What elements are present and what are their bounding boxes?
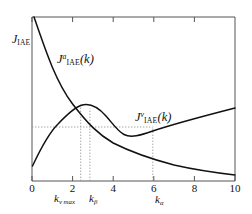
annotation-k-v-max-sub: v max <box>59 198 75 205</box>
curve-label-J-IAE-alpha: JaIAE(k) <box>57 52 94 67</box>
annotation-k-beta: kβ <box>89 192 97 205</box>
curve-label-v-arg: (k) <box>158 110 172 124</box>
x-tick-label-8: 8 <box>184 182 204 194</box>
x-tick-label-10: 10 <box>225 182 245 194</box>
x-tick-label-4: 4 <box>103 182 123 194</box>
annotation-k-v-max: kv max <box>54 192 75 205</box>
annotation-k-alpha-sub: α <box>160 199 164 206</box>
annotation-k-beta-sub: β <box>94 198 97 205</box>
curve-label-a-sub: IAE <box>66 58 80 67</box>
curve-label-v-sub: IAE <box>144 116 158 125</box>
figure-container: JIAE JaIAE(k) JvIAE(k) 0 2 4 6 8 10 kv m… <box>0 0 252 214</box>
curve-label-a-arg: (k) <box>80 52 94 66</box>
annotation-k-alpha: kα <box>155 193 163 206</box>
y-axis-label-sub: IAE <box>17 38 30 47</box>
x-tick-label-0: 0 <box>22 182 42 194</box>
y-axis-label: JIAE <box>12 32 30 47</box>
curve-label-J-IAE-v: JvIAE(k) <box>135 110 171 125</box>
